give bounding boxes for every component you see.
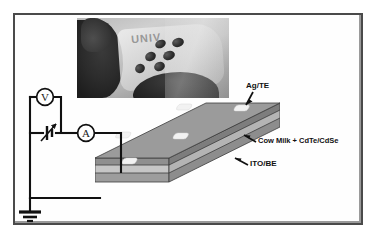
ammeter-label: A xyxy=(82,127,90,139)
callout-arrows xyxy=(235,92,256,165)
ammeter: A xyxy=(78,125,95,142)
wire-ammeter-right xyxy=(94,133,121,172)
label-bottom-electrode: ITO/BE xyxy=(250,160,277,168)
label-active-layer: Cow Milk + CdTe/CdSe xyxy=(258,137,339,145)
voltmeter: V xyxy=(37,89,54,106)
label-top-electrode: Ag/TE xyxy=(246,82,269,90)
ground-icon xyxy=(19,198,41,221)
measurement-circuit: V A xyxy=(0,0,376,241)
device-schematic-figure: UNIV xyxy=(0,0,376,241)
voltmeter-label: V xyxy=(41,91,49,103)
